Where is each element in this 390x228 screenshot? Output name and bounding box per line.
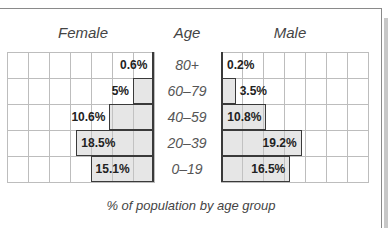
age-label: 40–59	[160, 104, 214, 130]
age-header: Age	[160, 24, 214, 42]
male-header: Male	[250, 24, 330, 42]
female-bar	[133, 78, 154, 104]
female-value-label: 10.6%	[49, 104, 105, 130]
female-value-label: 0.6%	[91, 52, 147, 78]
male-value-label: 3.5%	[240, 78, 267, 104]
female-header: Female	[40, 24, 126, 42]
female-bar	[109, 104, 154, 130]
female-value-label: 5%	[73, 78, 129, 104]
age-label: 60–79	[160, 78, 214, 104]
chart-caption: % of population by age group	[0, 198, 382, 213]
frame-shadow	[384, 18, 388, 228]
male-value-label: 10.8%	[221, 104, 261, 130]
age-label: 80+	[160, 52, 214, 78]
male-value-label: 19.2%	[221, 130, 297, 156]
frame-right-border	[381, 8, 382, 228]
frame-top-border	[0, 8, 382, 9]
male-bar	[221, 78, 236, 104]
male-value-label: 16.5%	[221, 156, 285, 182]
female-value-label: 15.1%	[96, 156, 130, 182]
age-label: 0–19	[160, 156, 214, 182]
male-value-label: 0.2%	[227, 52, 254, 78]
female-value-label: 18.5%	[81, 130, 115, 156]
age-label: 20–39	[160, 130, 214, 156]
male-bar	[221, 52, 223, 78]
female-bar	[151, 52, 154, 78]
